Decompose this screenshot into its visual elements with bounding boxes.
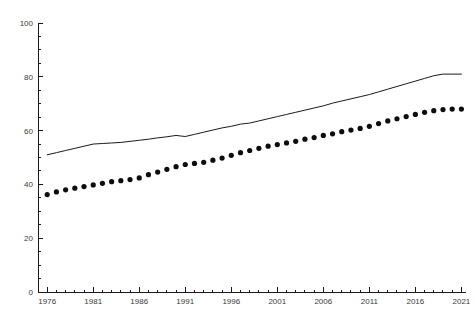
- data-point-marker: [293, 139, 298, 144]
- x-tick-label: 2011: [361, 297, 379, 306]
- data-point-marker: [440, 107, 445, 112]
- data-point-marker: [394, 116, 399, 121]
- data-point-marker: [54, 189, 59, 194]
- y-tick-label: 60: [24, 127, 33, 136]
- data-point-marker: [100, 181, 105, 186]
- data-point-marker: [302, 137, 307, 142]
- data-point-marker: [376, 121, 381, 126]
- data-point-marker: [450, 106, 455, 111]
- data-point-marker: [81, 184, 86, 189]
- x-tick-label: 1981: [84, 297, 102, 306]
- data-point-marker: [127, 177, 132, 182]
- data-point-marker: [173, 164, 178, 169]
- x-tick-label: 1986: [130, 297, 148, 306]
- data-point-marker: [109, 179, 114, 184]
- y-tick-label: 20: [24, 234, 33, 243]
- data-point-marker: [422, 110, 427, 115]
- data-point-marker: [339, 129, 344, 134]
- data-point-marker: [229, 153, 234, 158]
- data-point-marker: [321, 133, 326, 138]
- data-point-marker: [201, 160, 206, 165]
- lower-dotted-series: [45, 106, 464, 197]
- y-tick-label: 80: [24, 73, 33, 82]
- x-tick-label: 2001: [268, 297, 286, 306]
- x-tick-label: 2016: [406, 297, 424, 306]
- x-tick-label: 2006: [314, 297, 332, 306]
- y-tick-label: 0: [29, 288, 34, 297]
- data-point-marker: [63, 187, 68, 192]
- data-point-marker: [247, 148, 252, 153]
- x-axis-major-ticks: [47, 287, 461, 292]
- y-axis-tick-labels: 020406080100: [20, 19, 34, 297]
- data-point-marker: [385, 118, 390, 123]
- data-point-marker: [431, 108, 436, 113]
- data-point-marker: [45, 192, 50, 197]
- y-tick-label: 100: [20, 19, 34, 28]
- data-point-marker: [146, 172, 151, 177]
- upper-line-series: [47, 74, 461, 155]
- data-point-marker: [210, 158, 215, 163]
- data-point-marker: [367, 124, 372, 129]
- data-point-marker: [72, 186, 77, 191]
- x-tick-label: 2021: [452, 297, 470, 306]
- x-tick-label: 1996: [222, 297, 240, 306]
- x-axis-group: 1976198119861991199620012006201120162021: [38, 287, 471, 306]
- data-point-marker: [404, 114, 409, 119]
- y-tick-label: 40: [24, 180, 33, 189]
- chart-plot-area: 020406080100 197619811986199119962001200…: [0, 0, 475, 319]
- data-series-group: [45, 74, 464, 197]
- data-point-marker: [238, 150, 243, 155]
- data-point-marker: [155, 169, 160, 174]
- chart-container: 020406080100 197619811986199119962001200…: [0, 0, 475, 319]
- data-point-marker: [256, 146, 261, 151]
- x-axis-tick-labels: 1976198119861991199620012006201120162021: [38, 297, 471, 306]
- data-point-marker: [284, 140, 289, 145]
- data-point-marker: [348, 127, 353, 132]
- data-point-marker: [91, 182, 96, 187]
- x-tick-label: 1991: [176, 297, 194, 306]
- data-point-marker: [118, 178, 123, 183]
- data-point-marker: [192, 161, 197, 166]
- y-axis-minor-ticks: [38, 23, 41, 292]
- data-point-marker: [164, 167, 169, 172]
- data-point-marker: [312, 135, 317, 140]
- data-point-marker: [358, 126, 363, 131]
- data-point-marker: [137, 175, 142, 180]
- data-point-marker: [413, 112, 418, 117]
- data-point-marker: [183, 162, 188, 167]
- x-tick-label: 1976: [38, 297, 56, 306]
- data-point-marker: [330, 131, 335, 136]
- data-point-marker: [275, 142, 280, 147]
- data-point-marker: [266, 144, 271, 149]
- data-point-marker: [219, 155, 224, 160]
- y-axis-group: 020406080100: [20, 19, 43, 297]
- data-point-marker: [459, 106, 464, 111]
